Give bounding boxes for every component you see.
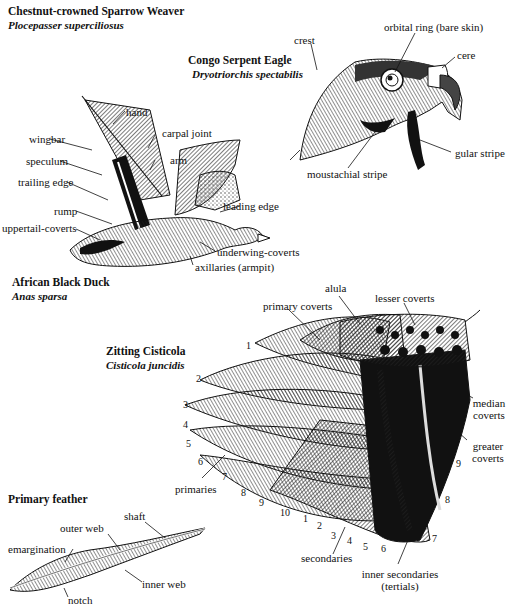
primary-number: 2 <box>196 373 201 384</box>
cisticola-wing-illustration <box>185 310 480 542</box>
label-carpal-joint: carpal joint <box>162 127 212 139</box>
label-leading-edge: leading edge <box>223 200 279 212</box>
secondary-number: 1 <box>303 513 308 524</box>
weaver-common-name: Chestnut-crowned Sparrow Weaver <box>8 5 184 18</box>
label-hand: hand <box>126 106 147 118</box>
label-underwing-coverts: underwing-coverts <box>217 246 299 258</box>
label-alula: alula <box>325 282 346 294</box>
primary-number: 8 <box>241 487 246 498</box>
label-lesser-coverts: lesser coverts <box>375 292 435 304</box>
label-uppertail-coverts: uppertail-coverts <box>2 222 77 234</box>
secondary-number: 5 <box>363 541 368 552</box>
primary-number: 10 <box>280 507 290 518</box>
weaver-scientific-name: Plocepasser superciliosus <box>8 19 124 32</box>
cisticola-common-name: Zitting Cisticola <box>106 345 186 358</box>
secondary-number: 7 <box>432 533 437 544</box>
label-primaries: primaries <box>175 483 217 495</box>
label-outer-web: outer web <box>60 522 104 534</box>
label-primary-coverts: primary coverts <box>263 300 332 312</box>
eagle-head-illustration <box>300 59 462 170</box>
secondary-number: 9 <box>456 458 461 469</box>
median-coverts-text: median coverts <box>470 397 508 421</box>
primary-number: 7 <box>222 471 227 482</box>
primary-number: 4 <box>183 419 188 430</box>
label-arm: arm <box>170 154 187 166</box>
label-trailing-edge: trailing edge <box>18 176 73 188</box>
primary-number: 6 <box>198 456 203 467</box>
label-gular-stripe: gular stripe <box>455 147 505 159</box>
duck-illustration <box>70 100 270 266</box>
label-axillaries: axillaries (armpit) <box>195 261 274 273</box>
label-emargination: emargination <box>8 543 66 555</box>
label-secondaries: secondaries <box>301 552 352 564</box>
label-orbital-ring: orbital ring (bare skin) <box>384 21 483 33</box>
greater-coverts-text: greater coverts <box>468 440 508 464</box>
label-wingbar: wingbar <box>29 133 65 145</box>
cisticola-scientific-name: Cisticola juncidis <box>106 359 185 372</box>
label-shaft: shaft <box>124 510 145 522</box>
secondary-number: 3 <box>331 530 336 541</box>
label-rump: rump <box>54 205 77 217</box>
secondary-number: 2 <box>317 520 322 531</box>
duck-scientific-name: Anas sparsa <box>12 290 67 303</box>
label-inner-secondaries: inner secondaries <box>354 568 446 580</box>
secondary-number: 4 <box>347 535 352 546</box>
label-moustachial-stripe: moustachial stripe <box>307 168 387 180</box>
feather-title: Primary feather <box>8 493 88 506</box>
label-greater-coverts: greater coverts <box>468 440 508 464</box>
primary-number: 1 <box>246 340 251 351</box>
label-notch: notch <box>68 594 92 606</box>
label-inner-web: inner web <box>142 578 186 590</box>
eagle-common-name: Congo Serpent Eagle <box>188 54 292 67</box>
label-tertials: (tertials) <box>354 580 446 592</box>
primary-number: 9 <box>259 497 264 508</box>
label-crest: crest <box>294 34 315 46</box>
secondary-number: 6 <box>381 543 386 554</box>
label-speculum: speculum <box>26 155 68 167</box>
eagle-scientific-name: Dryotriorchis spectabilis <box>192 68 303 81</box>
label-median-coverts: median coverts <box>470 397 508 421</box>
duck-common-name: African Black Duck <box>12 276 110 289</box>
primary-number: 3 <box>183 399 188 410</box>
secondary-number: 8 <box>445 494 450 505</box>
label-cere: cere <box>457 49 475 61</box>
primary-number: 5 <box>186 438 191 449</box>
